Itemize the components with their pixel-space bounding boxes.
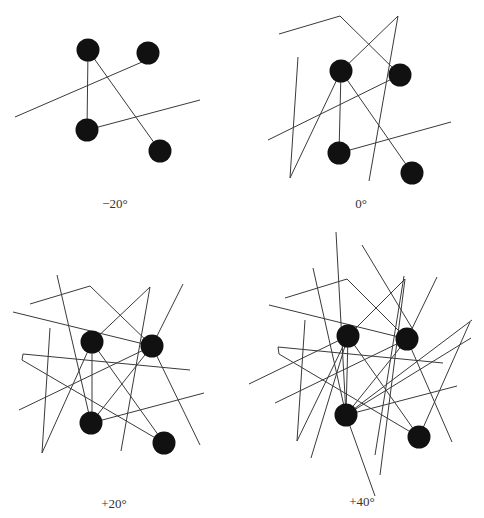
panel-0 [268,16,451,185]
panel-minus-20 [15,39,200,163]
connector-line [91,346,152,423]
connector-line [407,339,452,442]
connector-line [339,71,341,153]
node-circle [81,331,104,354]
panel-plus-20 [13,275,204,455]
connector-line [88,50,160,151]
node-circle [389,64,412,87]
connector-line [419,322,470,437]
connector-line [375,276,404,455]
diagram-canvas [0,0,484,518]
connector-line [87,100,200,130]
connector-line [346,415,375,496]
connector-line [346,339,407,415]
node-circle [330,60,353,83]
panel-label-0: 0° [355,196,367,212]
node-circle [408,426,431,449]
node-circle [149,140,172,163]
panel-label-plus-40: +40° [349,494,375,510]
node-circle [328,142,351,165]
node-circle [401,162,424,185]
connector-line [362,245,418,338]
connector-line [87,50,88,130]
connector-line [346,336,348,415]
connector-line [15,62,142,117]
node-circle [77,39,100,62]
node-circle [80,412,103,435]
panel-plus-40 [249,232,472,496]
node-circle [337,325,360,348]
node-circle [153,432,176,455]
node-circle [76,119,99,142]
node-circle [396,328,419,351]
connector-line [346,386,457,415]
node-circle [335,404,358,427]
node-circle [141,335,164,358]
panel-label-plus-20: +20° [101,496,127,512]
node-circle [137,42,160,65]
panel-label-minus-20: −20° [102,196,128,212]
